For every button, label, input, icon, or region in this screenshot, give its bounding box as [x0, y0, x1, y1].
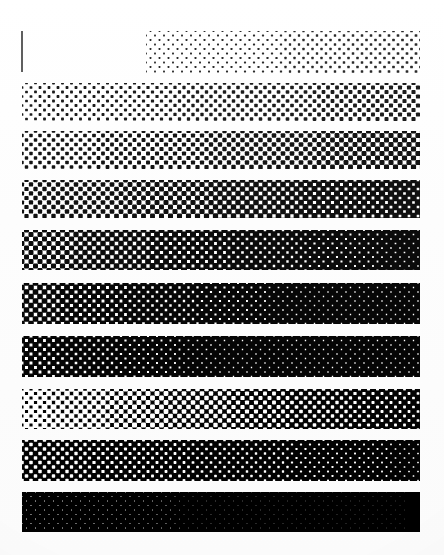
halftone-dot-screen [22, 440, 420, 481]
halftone-band [22, 230, 420, 270]
halftone-band [22, 492, 420, 532]
halftone-dot-screen [22, 180, 420, 218]
halftone-dot-screen [22, 389, 420, 429]
halftone-band [146, 31, 420, 73]
halftone-dot-screen [22, 230, 420, 270]
corner-registration-tick-icon [21, 31, 23, 72]
halftone-band [22, 131, 420, 169]
halftone-dot-screen [22, 336, 420, 377]
scanned-page [0, 0, 444, 555]
halftone-band [22, 180, 420, 218]
halftone-band [22, 389, 420, 429]
halftone-band [22, 283, 420, 324]
halftone-dot-screen [22, 83, 420, 121]
halftone-dot-screen [22, 283, 420, 324]
halftone-dot-screen [22, 131, 420, 169]
halftone-dot-screen [146, 31, 420, 73]
halftone-dot-screen [22, 492, 420, 532]
halftone-band [22, 336, 420, 377]
halftone-band [22, 83, 420, 121]
halftone-band [22, 440, 420, 481]
